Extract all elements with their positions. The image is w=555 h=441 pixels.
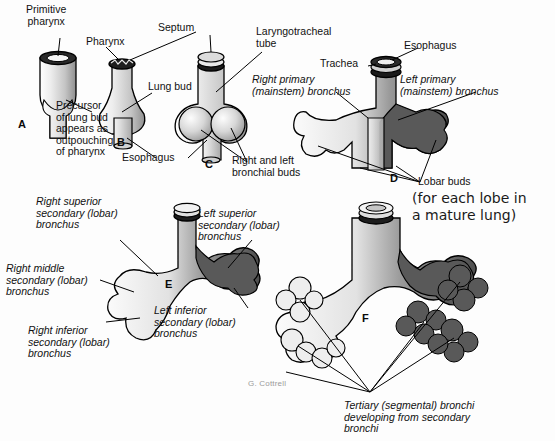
label-lobar-buds: Lobar buds <box>418 176 471 188</box>
label-pharynx: Pharynx <box>86 36 125 48</box>
panel-f-drawing <box>276 202 488 392</box>
label-right-primary-bronchus: Right primary (mainstem) bronchus <box>252 74 351 97</box>
label-left-primary-bronchus: Left primary (mainstem) bronchus <box>400 74 499 97</box>
label-bronchial-buds: Right and left bronchial buds <box>232 155 300 178</box>
panel-letter-a: A <box>18 118 26 130</box>
label-right-inferior-secondary-bronchus: Right inferior secondary (lobar) bronchu… <box>28 325 110 360</box>
panel-letter-b: B <box>117 136 125 148</box>
label-trachea: Trachea <box>320 58 358 70</box>
anatomical-figure: Primitive pharynx Precursor of lung bud … <box>0 0 555 441</box>
label-right-middle-secondary-bronchus: Right middle secondary (lobar) bronchus <box>6 263 88 298</box>
label-esophagus-d: Esophagus <box>404 40 457 52</box>
label-left-superior-secondary-bronchus: Left superior secondary (lobar) bronchus <box>198 208 280 243</box>
label-tertiary-bronchi: Tertiary (segmental) bronchi developing … <box>344 400 474 435</box>
label-right-superior-secondary-bronchus: Right superior secondary (lobar) bronchu… <box>36 196 118 231</box>
label-left-inferior-secondary-bronchus: Left inferior secondary (lobar) bronchus <box>154 305 236 340</box>
label-septum: Septum <box>158 22 194 34</box>
artist-signature: G. Cottrell <box>248 379 286 388</box>
label-esophagus-b: Esophagus <box>122 152 175 164</box>
panel-letter-e: E <box>165 278 172 290</box>
label-lung-bud: Lung bud <box>148 81 192 93</box>
handwritten-lobar-note: (for each lobe in a mature lung) <box>412 190 527 224</box>
label-primitive-pharynx: Primitive pharynx <box>26 4 66 27</box>
label-laryngotracheal-tube: Laryngotracheal tube <box>256 26 331 49</box>
panel-letter-d: D <box>390 172 398 184</box>
panel-c-drawing <box>175 35 262 163</box>
label-precursor-of-lung-bud: Precursor of lung bud appears as outpouc… <box>56 100 113 158</box>
panel-letter-c: C <box>205 158 213 170</box>
panel-letter-f: F <box>362 312 369 324</box>
